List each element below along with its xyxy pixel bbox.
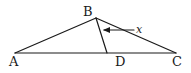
label-c: C [172, 54, 182, 69]
segment-bd [96, 18, 107, 53]
triangle-diagram: B x A D C [0, 0, 191, 73]
segment-ab [15, 18, 96, 53]
label-d: D [115, 54, 125, 69]
label-a: A [8, 54, 19, 69]
label-b: B [83, 4, 93, 19]
label-angle-x: x [136, 23, 143, 36]
